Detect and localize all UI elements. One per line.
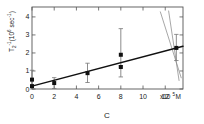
x-tick-label: 4 [74,93,78,100]
x-tick-label: 2 [52,93,56,100]
x-unit-molar: M [176,93,181,100]
data-point-marker [119,65,123,69]
y-title-sub: 2 [12,45,17,48]
chart-svg: 024681012 01234 x10 5 M C T2-1(106 sec-1… [0,0,204,124]
y-axis-title: T2-1(106 sec-1) [7,11,16,52]
chart-figure: 024681012 01234 x10 5 M C T2-1(106 sec-1… [0,0,204,124]
confidence-bound-lines [160,11,181,81]
x-unit-mantissa: x10 [160,93,171,100]
y-axis-title-parts: T2-1(106 sec-1) [7,11,16,52]
x-unit-annotation: x10 5 M [160,92,181,101]
data-point-marker [86,71,90,75]
x-tick-label: 8 [119,93,123,100]
y-title-paren-close: ) [8,11,16,13]
bound-line [169,11,180,81]
top-axis-ticks [32,7,165,11]
data-point-marker [30,78,34,82]
x-axis-title: C [104,111,110,120]
bound-line [160,12,181,79]
regression-line [32,46,183,86]
y-tick-label: 4 [26,13,30,20]
data-point-marker [52,81,56,85]
data-point-marker [30,84,34,88]
x-tick-label: 0 [30,93,34,100]
y-tick-label: 0 [26,86,30,93]
y-tick-labels: 01234 [26,13,30,92]
x-tick-labels: 024681012 [30,93,169,100]
y-tick-label: 1 [26,67,30,74]
x-tick-label: 10 [139,93,147,100]
y-tick-label: 2 [26,49,30,56]
data-point-marker [119,53,123,57]
y-tick-label: 3 [26,31,30,38]
data-point-marker [174,46,178,50]
fit-line [32,46,183,86]
x-axis-ticks [32,86,165,90]
plot-frame [32,7,183,89]
x-tick-label: 6 [97,93,101,100]
error-bars [30,29,179,89]
